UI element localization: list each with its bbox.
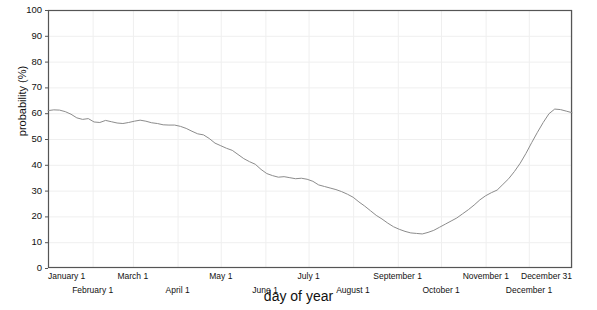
y-tick-label: 70 (10, 82, 42, 92)
x-tick-label: January 1 (48, 272, 85, 281)
x-tick-label: May 1 (209, 272, 232, 281)
chart-figure: probability (%) day of year 010203040506… (0, 0, 597, 310)
data-line-probability (48, 109, 572, 234)
x-tick-label: December 1 (506, 286, 552, 295)
y-tick-label: 10 (10, 237, 42, 247)
y-axis-tick-marks (45, 11, 48, 269)
x-tick-label: June 1 (252, 286, 278, 295)
x-tick-label: August 1 (336, 286, 370, 295)
y-tick-label: 30 (10, 186, 42, 196)
y-tick-label: 20 (10, 211, 42, 221)
x-tick-label: September 1 (373, 272, 422, 281)
y-tick-label: 90 (10, 31, 42, 41)
plot-area (0, 0, 597, 310)
y-tick-label: 100 (10, 5, 42, 15)
x-tick-label: April 1 (166, 286, 190, 295)
y-tick-label: 0 (10, 263, 42, 273)
gridlines (48, 10, 573, 268)
y-tick-label: 50 (10, 134, 42, 144)
y-tick-label: 60 (10, 108, 42, 118)
y-tick-label: 40 (10, 160, 42, 170)
x-tick-label: March 1 (117, 272, 148, 281)
x-tick-label: October 1 (423, 286, 460, 295)
x-tick-label: February 1 (72, 286, 113, 295)
x-tick-label: November 1 (463, 272, 509, 281)
x-tick-label: July 1 (298, 272, 320, 281)
y-axis-title: probability (%) (16, 31, 28, 171)
y-tick-label: 80 (10, 57, 42, 67)
x-tick-label: December 31 (521, 272, 572, 281)
